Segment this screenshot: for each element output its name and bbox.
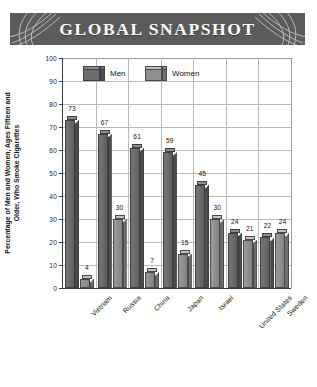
category-separator xyxy=(226,58,227,288)
bar-japan-women xyxy=(178,254,188,289)
gridline xyxy=(63,104,291,105)
bar-value-label: 24 xyxy=(231,218,239,225)
x-axis-label: Vietnam xyxy=(90,294,114,318)
bar-value-label: 4 xyxy=(85,264,89,271)
y-tick-label: 90 xyxy=(49,78,57,85)
y-axis-title-line2: Older, Who Smoke Cigarettes xyxy=(13,125,20,222)
bar-russia-women xyxy=(113,219,123,288)
y-tick xyxy=(59,288,63,289)
global-snapshot-figure: GLOBAL SNAPSHOT Percentage of Men and Wo… xyxy=(0,0,317,387)
bar-vietnam-men xyxy=(65,120,75,288)
bar-russia-men xyxy=(98,134,108,288)
bar-united-states-men xyxy=(228,233,238,288)
bar-japan-men xyxy=(163,152,173,288)
y-tick-label: 0 xyxy=(53,285,57,292)
category-separator xyxy=(128,58,129,288)
y-tick-label: 30 xyxy=(49,216,57,223)
bar-value-label: 7 xyxy=(150,257,154,264)
banner: GLOBAL SNAPSHOT xyxy=(10,13,305,45)
y-tick-label: 40 xyxy=(49,193,57,200)
y-tick xyxy=(59,81,63,82)
y-tick xyxy=(59,219,63,220)
bar-china-women xyxy=(145,272,155,288)
legend-label-men: Men xyxy=(110,69,126,78)
bar-value-label: 21 xyxy=(246,225,254,232)
bar-israel-men xyxy=(195,185,205,289)
legend-swatch-men-icon xyxy=(83,66,105,81)
plot-area: 0102030405060708090100 73467306175915453… xyxy=(62,58,291,289)
bar-value-label: 45 xyxy=(199,170,207,177)
bar-value-label: 73 xyxy=(68,105,76,112)
bar-vietnam-women xyxy=(80,279,90,288)
category-separator xyxy=(193,58,194,288)
legend-label-women: Women xyxy=(172,69,199,78)
bar-israel-women xyxy=(210,219,220,288)
bar-value-label: 24 xyxy=(279,218,287,225)
y-tick xyxy=(59,104,63,105)
gridline xyxy=(63,81,291,82)
y-tick xyxy=(59,150,63,151)
bar-value-label: 30 xyxy=(214,204,222,211)
bar-value-label: 67 xyxy=(101,119,109,126)
legend-swatch-women-icon xyxy=(145,66,167,81)
y-tick-label: 10 xyxy=(49,262,57,269)
gridline xyxy=(63,58,291,59)
category-separator xyxy=(291,58,292,288)
y-tick xyxy=(59,173,63,174)
bar-value-label: 59 xyxy=(166,137,174,144)
gridline xyxy=(63,127,291,128)
y-tick-label: 70 xyxy=(49,124,57,131)
y-tick-label: 100 xyxy=(45,55,57,62)
y-tick xyxy=(59,242,63,243)
bar-china-men xyxy=(130,148,140,288)
x-axis-label: China xyxy=(153,294,171,312)
bar-united-states-women xyxy=(243,240,253,288)
y-tick xyxy=(59,265,63,266)
bar-chart: Percentage of Men and Women, Ages Fiftee… xyxy=(0,48,317,387)
legend-item-men: Men xyxy=(83,66,126,81)
legend-item-women: Women xyxy=(145,66,199,81)
y-tick xyxy=(59,127,63,128)
y-axis-title-line1: Percentage of Men and Women, Ages Fiftee… xyxy=(4,92,11,253)
x-axis-label: Israel xyxy=(218,294,235,311)
bar-sweden-men xyxy=(260,237,270,288)
banner-title: GLOBAL SNAPSHOT xyxy=(10,13,305,45)
bar-value-label: 15 xyxy=(181,239,189,246)
x-axis-label: Japan xyxy=(186,294,205,313)
y-tick xyxy=(59,196,63,197)
y-tick-label: 50 xyxy=(49,170,57,177)
bar-value-label: 61 xyxy=(133,133,141,140)
y-tick-label: 80 xyxy=(49,101,57,108)
bar-sweden-women xyxy=(275,233,285,288)
y-axis-title: Percentage of Men and Women, Ages Fiftee… xyxy=(2,58,24,288)
category-separator xyxy=(258,58,259,288)
bar-value-label: 30 xyxy=(116,204,124,211)
x-axis-label: Russia xyxy=(121,294,142,315)
y-tick xyxy=(59,58,63,59)
bar-value-label: 22 xyxy=(264,222,272,229)
y-tick-label: 60 xyxy=(49,147,57,154)
y-tick-label: 20 xyxy=(49,239,57,246)
